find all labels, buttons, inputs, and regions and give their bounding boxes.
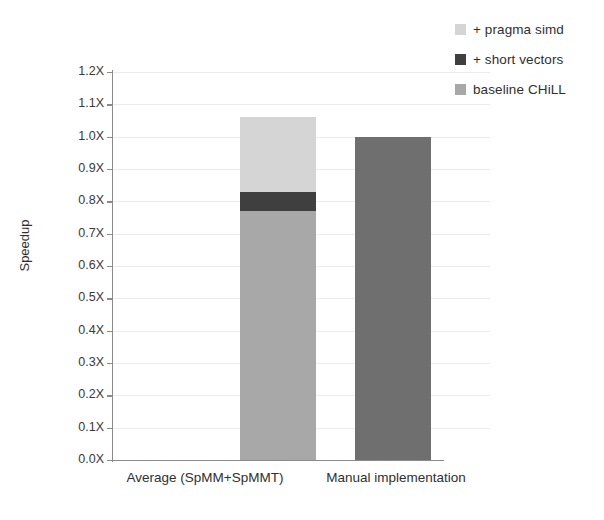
bar-segment (240, 117, 316, 191)
y-tick-label: 0.5X (48, 290, 104, 304)
x-tick-label-manual: Manual implementation (298, 470, 494, 485)
bar-segment (240, 211, 316, 460)
y-tick-label: 0.3X (48, 355, 104, 369)
bar-segment (240, 192, 316, 211)
y-tick-label: 0.4X (48, 323, 104, 337)
y-tick-label: 1.1X (48, 96, 104, 110)
y-tick-label: 0.7X (48, 226, 104, 240)
x-tick-label-average: Average (SpMM+SpMMT) (110, 470, 300, 485)
y-tick-label: 1.2X (48, 64, 104, 78)
speedup-stacked-bar-chart: + pragma simd + short vectors baseline C… (0, 0, 604, 520)
y-tick-label: 0.0X (48, 452, 104, 466)
plot-area (113, 72, 490, 460)
bar-segment (355, 137, 431, 460)
y-tick-label: 0.1X (48, 420, 104, 434)
bar-manual (355, 72, 431, 460)
y-tick-label: 0.6X (48, 258, 104, 272)
y-tick-label: 0.8X (48, 193, 104, 207)
x-axis-line (112, 460, 444, 461)
y-tick-label: 0.2X (48, 387, 104, 401)
y-tick-label: 1.0X (48, 129, 104, 143)
y-tick-label: 0.9X (48, 161, 104, 175)
bar-average (240, 72, 316, 460)
